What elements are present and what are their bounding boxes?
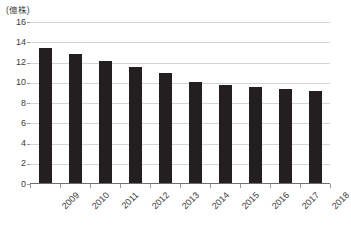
bar [309,91,322,184]
bar [159,73,172,184]
x-axis-tick-label: 2015 [240,190,261,211]
y-axis-tick-label: 10 [4,78,26,87]
x-axis-tick-label: 2010 [90,190,111,211]
y-axis-tick-mark [27,164,30,165]
x-axis-tick-mark [120,184,121,188]
bar [249,87,262,184]
y-axis-tick-mark [27,63,30,64]
x-axis-tick-label: 2013 [180,190,201,211]
x-axis-tick-mark [330,184,331,188]
x-axis-tick-mark [180,184,181,188]
x-axis-tick-label: 2012 [150,190,171,211]
x-axis-tick-mark [240,184,241,188]
y-axis-tick-mark [27,144,30,145]
x-axis-tick-mark [30,184,31,188]
bar [69,54,82,184]
gridline [30,42,330,43]
x-axis-tick-mark [300,184,301,188]
x-axis-tick-label: 2018 [330,190,351,211]
y-axis-tick-label: 8 [4,99,26,108]
x-axis-tick-label: 2016 [270,190,291,211]
x-axis-tick-label: 2017 [300,190,321,211]
x-axis-tick-mark [90,184,91,188]
y-axis-tick-labels: 1614121086420 [0,22,26,184]
bar [219,85,232,184]
x-axis-tick-label: 2009 [60,190,81,211]
bar [39,48,52,184]
y-axis-unit-label: (億株) [6,3,30,15]
y-axis-tick-label: 16 [4,18,26,27]
bar [279,89,292,184]
gridline [30,22,330,23]
y-axis-tick-label: 2 [4,159,26,168]
bar [189,82,202,184]
x-axis-tick-mark [210,184,211,188]
y-axis-tick-label: 0 [4,180,26,189]
y-axis-tick-label: 4 [4,139,26,148]
y-axis-tick-mark [27,103,30,104]
y-axis-tick-label: 12 [4,58,26,67]
x-axis-tick-label: 2011 [120,190,141,211]
x-axis-tick-mark [270,184,271,188]
y-axis-tick-mark [27,42,30,43]
y-axis-tick-label: 6 [4,119,26,128]
y-axis-tick-mark [27,123,30,124]
plot-area [30,22,330,184]
x-axis-tick-label: 2014 [210,190,231,211]
bar [99,61,112,184]
x-axis-tick-mark [60,184,61,188]
y-axis-tick-label: 14 [4,38,26,47]
bar [129,67,142,184]
y-axis-tick-mark [27,22,30,23]
y-axis-tick-mark [27,83,30,84]
y-axis-tick-mark [27,184,30,185]
x-axis-tick-mark [150,184,151,188]
